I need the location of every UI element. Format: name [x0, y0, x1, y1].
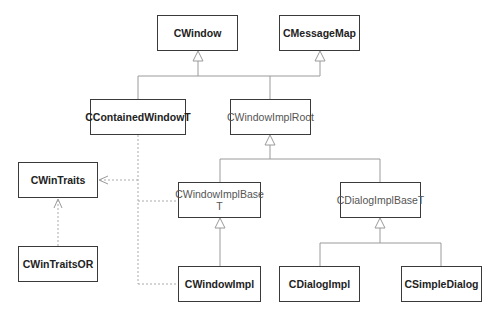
class-label-line1: CWindowImplBase	[173, 188, 266, 200]
inheritance-arrowhead-icon	[193, 51, 203, 61]
class-box-csimpledialog: CSimpleDialog	[401, 266, 482, 302]
class-hierarchy-diagram: CWindow CMessageMap CContainedWindowT CW…	[0, 0, 501, 316]
class-label: CWindow	[172, 27, 224, 39]
class-label: CWindowImplRoot	[225, 111, 316, 123]
class-label-line2: T	[214, 200, 224, 212]
class-label: CSimpleDialog	[402, 278, 480, 290]
class-label: CWinTraits	[29, 174, 88, 186]
inheritance-arrowhead-icon	[215, 218, 225, 228]
class-box-cdialogimpl: CDialogImpl	[279, 266, 360, 302]
inheritance-arrowhead-icon	[315, 51, 325, 61]
class-label: CWindowImpl	[183, 278, 256, 290]
class-box-cwindowimpl: CWindowImpl	[178, 266, 261, 302]
class-label: CWinTraitsOR	[21, 258, 96, 270]
class-label: CMessageMap	[281, 27, 358, 39]
class-label: CContainedWindowT	[83, 111, 192, 123]
class-box-cwintraitsor: CWinTraitsOR	[18, 246, 98, 282]
inheritance-arrowhead-icon	[265, 135, 275, 145]
class-box-cwindow: CWindow	[157, 15, 238, 51]
class-box-cmessagemap: CMessageMap	[279, 15, 360, 51]
class-box-cwintraits: CWinTraits	[18, 162, 98, 198]
class-label: CDialogImplBaseT	[335, 194, 427, 206]
class-label: CDialogImpl	[287, 278, 352, 290]
class-box-ccontainedwindowt: CContainedWindowT	[90, 99, 186, 135]
class-box-cwindowimplbaset: CWindowImplBase T	[178, 182, 261, 218]
class-box-cwindowimplroot: CWindowImplRoot	[230, 99, 311, 135]
inheritance-arrowhead-icon	[375, 218, 385, 228]
class-box-cdialogimplbaset: CDialogImplBaseT	[340, 182, 421, 218]
